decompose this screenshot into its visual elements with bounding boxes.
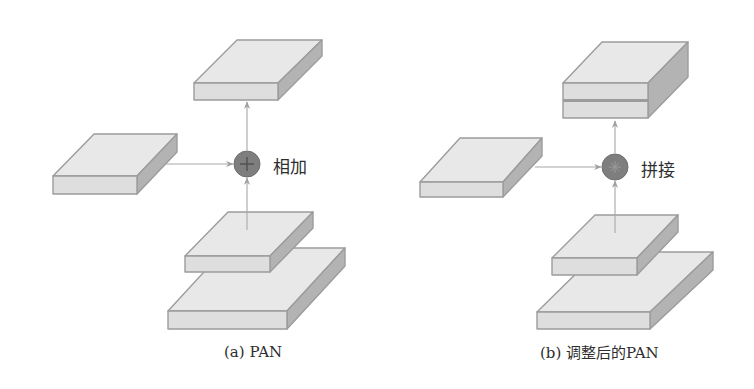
asterisk-icon (602, 154, 628, 180)
feature-map-block-output-concatenated (563, 42, 688, 118)
feature-map-block-lateral (420, 138, 542, 197)
caption-panel-a: (a) PAN (224, 343, 282, 361)
panel-b (420, 42, 713, 329)
operation-label-add: 相加 (273, 153, 307, 178)
caption-panel-b: (b) 调整后的PAN (540, 341, 659, 362)
plus-icon (234, 151, 260, 177)
feature-map-block-output (194, 40, 322, 100)
feature-map-block-lateral (53, 134, 177, 194)
operation-label-concat: 拼接 (641, 156, 675, 181)
pan-comparison-diagram (0, 0, 754, 389)
panel-a (53, 40, 345, 329)
